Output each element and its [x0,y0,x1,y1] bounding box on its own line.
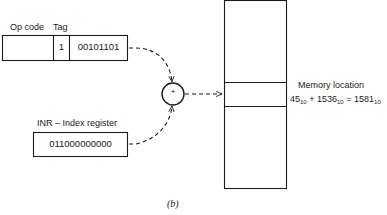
effective-address-value: 1581 [354,94,374,104]
displacement-value: 45 [290,94,300,104]
diagram-lines [0,0,387,215]
opcode-label: Op code [10,22,44,32]
base-subscript: 10 [374,99,381,105]
base-subscript: 10 [300,99,307,105]
base-subscript: 10 [337,99,344,105]
index-register-value: 011000000000 [34,138,127,149]
memory-block [225,1,287,189]
plus-icon: + [162,87,184,96]
index-value: 1536 [317,94,337,104]
address-field: 00101101 [70,41,127,52]
address-to-adder-arrow [129,48,172,82]
memory-location-label: Memory location [298,80,364,90]
figure-caption: (b) [167,198,179,209]
plus-sign: + [309,94,314,104]
index-register-label: INR – Index register [37,118,117,128]
equals-sign: = [346,94,351,104]
tag-field: 1 [54,41,69,52]
index-to-adder-arrow [129,106,172,144]
tag-label: Tag [53,22,68,32]
address-equation: 4510 + 153610 = 158110 [290,94,381,105]
